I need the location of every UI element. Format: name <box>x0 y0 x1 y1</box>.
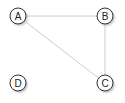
node-label: D <box>14 78 21 89</box>
node-label: A <box>15 11 22 22</box>
edge-a-c <box>18 16 105 83</box>
node-label: C <box>101 78 108 89</box>
graph-diagram: A B C D <box>0 0 125 103</box>
node-d[interactable]: D <box>10 75 28 93</box>
node-c[interactable]: C <box>97 75 115 93</box>
edges <box>18 16 105 83</box>
node-a[interactable]: A <box>10 8 28 26</box>
node-b[interactable]: B <box>97 8 115 26</box>
node-label: B <box>102 11 109 22</box>
